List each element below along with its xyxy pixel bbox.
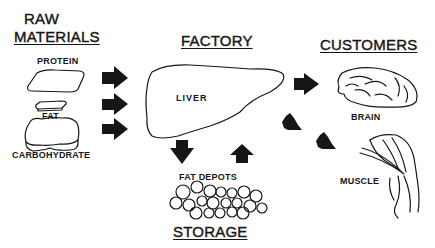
arrow-liver-to-muscle-2	[316, 132, 336, 149]
fat-block-icon	[36, 101, 66, 111]
muscle-icon	[360, 135, 419, 218]
arrow-liver-to-muscle-1	[282, 113, 302, 130]
liver-icon	[146, 65, 284, 138]
carbohydrate-loaf-icon	[25, 118, 79, 151]
arrow-fat-to-liver	[102, 93, 128, 115]
arrow-liver-to-fat-depots	[170, 140, 194, 164]
brain-icon	[338, 68, 417, 108]
protein-slab-icon	[28, 70, 85, 92]
arrow-protein-to-liver	[102, 66, 128, 89]
fat-depot-cells-icon	[170, 181, 267, 219]
arrow-fat-depots-to-liver	[230, 144, 254, 163]
diagram-drawing	[0, 0, 435, 248]
arrow-liver-to-brain	[294, 73, 319, 95]
arrow-carbohydrate-to-liver	[102, 118, 128, 140]
